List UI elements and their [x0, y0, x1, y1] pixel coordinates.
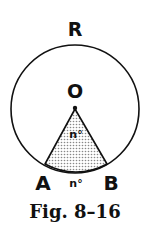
- minor-arc-label: n°: [69, 177, 82, 190]
- center-label: O: [67, 80, 83, 102]
- center-point: [73, 106, 77, 110]
- figure-caption: Fig. 8–16: [29, 201, 120, 222]
- circle-diagram: R O n° A B n° Fig. 8–16: [0, 0, 152, 225]
- central-angle-label: n°: [69, 128, 82, 141]
- major-arc-label: R: [68, 18, 83, 40]
- point-b-label: B: [103, 171, 118, 195]
- point-a-label: A: [35, 171, 51, 195]
